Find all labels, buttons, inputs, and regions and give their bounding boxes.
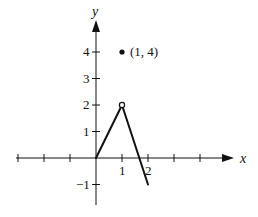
y-axis-label: y xyxy=(90,4,99,19)
y-tick-label: 3 xyxy=(83,71,90,86)
filled-circle-icon xyxy=(119,49,124,54)
y-tick-label: 2 xyxy=(83,97,90,112)
x-tick-label: 1 xyxy=(119,163,126,178)
plot-area: xy12−11234(1, 4) xyxy=(0,0,258,217)
y-tick-label: 4 xyxy=(83,44,90,59)
open-circle-icon xyxy=(119,102,124,107)
x-axis-arrow-icon xyxy=(222,154,234,162)
function-graph: xy12−11234(1, 4) xyxy=(0,0,258,217)
y-tick-label: −1 xyxy=(76,177,90,192)
y-axis-arrow-icon xyxy=(92,20,100,32)
graph-segment-2 xyxy=(122,105,148,185)
x-axis-label: x xyxy=(239,151,247,166)
point-annotation: (1, 4) xyxy=(130,44,158,59)
y-tick-label: 1 xyxy=(83,124,90,139)
